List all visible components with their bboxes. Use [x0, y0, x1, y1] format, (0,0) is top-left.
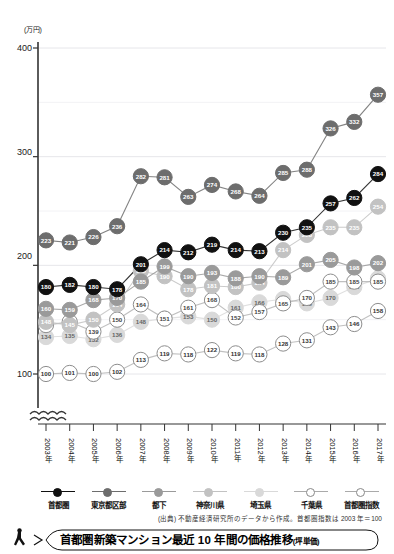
- data-point: 180: [86, 279, 101, 294]
- x-axis-label-5: 2008年: [160, 438, 170, 463]
- data-point: 118: [252, 347, 267, 362]
- data-point: 201: [299, 257, 314, 272]
- svg-text:135: 135: [65, 332, 76, 339]
- legend-dot-icon: [204, 488, 213, 497]
- svg-text:161: 161: [183, 304, 194, 311]
- svg-text:357: 357: [373, 91, 384, 98]
- data-point: 257: [323, 196, 338, 211]
- legend-item-4[interactable]: 埼玉県: [237, 486, 285, 510]
- svg-text:122: 122: [207, 346, 218, 353]
- data-point: 151: [157, 311, 172, 326]
- svg-text:213: 213: [254, 248, 265, 255]
- svg-text:181: 181: [207, 282, 218, 289]
- svg-text:178: 178: [112, 286, 123, 293]
- data-point: 159: [62, 302, 77, 317]
- legend-label: 首都圏指数: [344, 499, 379, 510]
- x-axis-label-3: 2006年: [112, 438, 122, 463]
- svg-text:205: 205: [325, 256, 336, 263]
- legend-item-2[interactable]: 都下: [135, 486, 183, 510]
- svg-text:235: 235: [325, 224, 336, 231]
- svg-text:180: 180: [88, 283, 99, 290]
- data-point: 180: [38, 279, 53, 294]
- svg-text:168: 168: [88, 296, 99, 303]
- svg-text:281: 281: [159, 174, 170, 181]
- svg-text:268: 268: [231, 188, 242, 195]
- svg-text:254: 254: [373, 203, 384, 210]
- data-point: 332: [347, 114, 362, 129]
- svg-text:201: 201: [136, 261, 147, 268]
- x-axis-label-0: 2003年: [41, 438, 51, 463]
- x-axis-label-12: 2015年: [326, 438, 336, 463]
- svg-text:151: 151: [159, 315, 170, 322]
- data-point: 263: [181, 189, 196, 204]
- svg-text:274: 274: [207, 181, 218, 188]
- data-point: 190: [252, 269, 267, 284]
- data-point: 158: [370, 303, 385, 318]
- data-point: 212: [181, 245, 196, 260]
- svg-text:190: 190: [183, 273, 194, 280]
- data-point: 274: [204, 177, 219, 192]
- legend-item-0[interactable]: 首都圏: [34, 486, 82, 510]
- data-point: 357: [370, 87, 385, 102]
- svg-text:262: 262: [349, 194, 360, 201]
- data-point: 119: [228, 346, 243, 361]
- data-point: 102: [110, 364, 125, 379]
- data-point: 214: [157, 243, 172, 258]
- x-axis-labels: 2003年2004年2005年2006年2007年2008年2009年2010年…: [0, 432, 394, 490]
- svg-text:180: 180: [41, 283, 52, 290]
- svg-text:134: 134: [41, 333, 52, 340]
- svg-text:150: 150: [207, 316, 218, 323]
- legend-item-6[interactable]: 首都圏指数: [338, 486, 386, 510]
- svg-text:148: 148: [136, 318, 147, 325]
- svg-text:118: 118: [254, 351, 265, 358]
- x-axis-label-9: 2012年: [254, 438, 264, 463]
- svg-text:190: 190: [254, 273, 265, 280]
- legend-swatch-icon: [142, 486, 176, 497]
- data-point: 160: [38, 301, 53, 316]
- legend-dot-icon: [306, 488, 315, 497]
- svg-text:164: 164: [136, 301, 147, 308]
- data-point: 118: [181, 347, 196, 362]
- svg-text:202: 202: [373, 259, 384, 266]
- data-point: 288: [299, 162, 314, 177]
- data-point: 178: [110, 282, 125, 297]
- data-point: 188: [228, 271, 243, 286]
- svg-text:326: 326: [325, 125, 336, 132]
- legend-item-1[interactable]: 東京都区部: [85, 486, 133, 510]
- svg-text:182: 182: [65, 281, 76, 288]
- legend-dot-icon: [154, 488, 163, 497]
- svg-text:101: 101: [65, 369, 76, 376]
- data-point: 170: [323, 290, 338, 305]
- svg-text:214: 214: [231, 246, 242, 253]
- data-point: 254: [370, 199, 385, 214]
- caption-title-sub: (坪単価): [293, 537, 320, 546]
- svg-text:119: 119: [160, 350, 171, 357]
- svg-text:152: 152: [231, 314, 242, 321]
- svg-text:160: 160: [41, 305, 52, 312]
- legend-item-3[interactable]: 神奈川県: [186, 486, 234, 510]
- legend-item-5[interactable]: 千葉県: [287, 486, 335, 510]
- data-point: 193: [204, 265, 219, 280]
- svg-text:230: 230: [278, 229, 289, 236]
- x-axis-label-1: 2004年: [65, 438, 75, 463]
- svg-text:100: 100: [41, 370, 52, 377]
- data-point: 157: [252, 304, 267, 319]
- svg-text:285: 285: [278, 169, 289, 176]
- legend-swatch-icon: [294, 486, 328, 497]
- data-point: 100: [86, 366, 101, 381]
- svg-text:235: 235: [349, 224, 360, 231]
- svg-text:226: 226: [88, 233, 99, 240]
- svg-text:102: 102: [112, 368, 123, 375]
- chart-legend: 首都圏 東京都区部 都下 神奈川県 埼玉県 千葉県 首都圏指数: [34, 486, 386, 510]
- svg-text:150: 150: [112, 316, 123, 323]
- data-point: 268: [228, 184, 243, 199]
- svg-text:199: 199: [159, 263, 170, 270]
- svg-text:145: 145: [65, 321, 76, 328]
- svg-text:263: 263: [183, 193, 194, 200]
- legend-label: 首都圏: [48, 499, 69, 510]
- x-axis-label-11: 2014年: [302, 438, 312, 463]
- svg-text:235: 235: [302, 224, 313, 231]
- data-point: 101: [62, 365, 77, 380]
- data-point: 214: [228, 243, 243, 258]
- data-point: 185: [323, 274, 338, 289]
